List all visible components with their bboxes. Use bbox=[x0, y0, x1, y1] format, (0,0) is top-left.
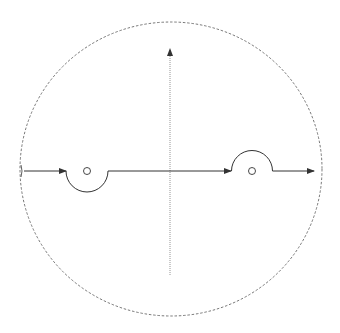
contour-path bbox=[24, 151, 314, 192]
pole-right-icon bbox=[249, 168, 256, 175]
contour-diagram bbox=[0, 0, 340, 333]
pole-left-icon bbox=[84, 168, 91, 175]
boundary-circle bbox=[20, 22, 322, 316]
boundary-start-tick bbox=[21, 165, 22, 177]
